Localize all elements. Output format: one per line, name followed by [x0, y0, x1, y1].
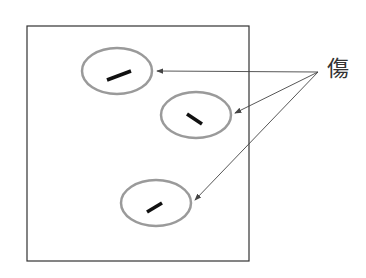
- pointer-arrow-2: [235, 72, 318, 113]
- frame-box: [27, 26, 249, 261]
- scratch-mark-2: [187, 114, 202, 124]
- scratch-label: 傷: [327, 55, 349, 83]
- spot-ellipse-1: [82, 48, 152, 94]
- pointer-arrow-1: [157, 71, 318, 72]
- spot-ellipse-3: [121, 180, 191, 226]
- spots-layer: [82, 48, 231, 226]
- diagram-canvas: [0, 0, 366, 278]
- spot-ellipse-2: [161, 92, 231, 138]
- scratch-mark-1: [107, 71, 131, 80]
- scratch-mark-3: [147, 203, 162, 212]
